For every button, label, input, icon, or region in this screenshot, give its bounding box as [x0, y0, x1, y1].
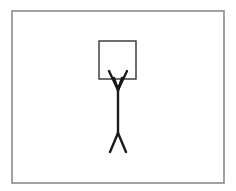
- drawing-canvas: [0, 0, 236, 191]
- left-leg: [110, 133, 118, 152]
- stick-figure: [109, 71, 127, 152]
- held-box: [99, 41, 136, 79]
- right-leg: [118, 133, 126, 152]
- stick-figure-drawing: [0, 0, 236, 191]
